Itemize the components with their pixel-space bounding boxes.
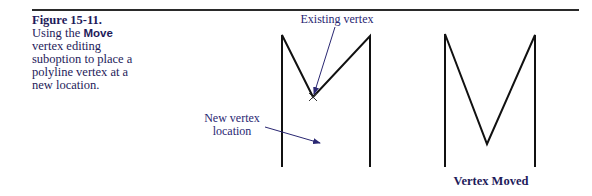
- new-vertex-label: New vertex location: [200, 112, 264, 137]
- new-vertex-label-line1: New vertex: [200, 112, 264, 125]
- polyline-after: [445, 34, 535, 167]
- vertex-marker-icon: [309, 93, 317, 101]
- new-vertex-label-line2: location: [200, 125, 264, 138]
- figure-diagram: [0, 0, 592, 196]
- vertex-moved-label: Vertex Moved: [446, 175, 536, 188]
- existing-vertex-label: Existing vertex: [297, 13, 377, 26]
- new-vertex-arrow: [265, 127, 320, 143]
